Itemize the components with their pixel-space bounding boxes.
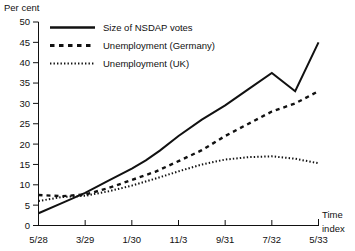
series-line-dashed [39,91,319,196]
x-tick-label: 5/33 [309,234,328,245]
y-tick-label: 5 [25,200,30,211]
x-tick-label: 9/31 [216,234,235,245]
chart-legend: Size of NSDAP votesUnemployment (Germany… [50,22,215,69]
legend-label-2: Unemployment (UK) [103,58,189,69]
y-tick-label: 20 [19,139,30,150]
y-tick-label: 25 [19,118,30,129]
legend-label-0: Size of NSDAP votes [103,22,193,33]
y-tick-label: 45 [19,37,30,48]
x-axis-ticks: 5/283/291/3011/39/317/325/33 [29,220,328,245]
y-tick-label: 35 [19,77,30,88]
y-tick-label: 40 [19,57,30,68]
y-tick-label: 0 [25,220,30,231]
x-axis-title-line2: index [322,223,345,234]
y-tick-label: 10 [19,179,30,190]
y-axis-ticks: 05101520253035404550 [19,16,38,231]
x-tick-label: 1/30 [123,234,142,245]
x-tick-label: 11/3 [170,234,188,245]
y-axis-title: Per cent [4,2,40,13]
x-axis-title-line1: Time [322,209,343,220]
x-tick-label: 3/29 [76,234,95,245]
line-chart: Per cent 05101520253035404550 5/283/291/… [0,0,355,251]
chart-container: Per cent 05101520253035404550 5/283/291/… [0,0,355,251]
y-tick-label: 15 [19,159,30,170]
y-tick-label: 30 [19,98,30,109]
y-tick-label: 50 [19,16,30,27]
legend-label-1: Unemployment (Germany) [103,40,215,51]
x-tick-label: 7/32 [263,234,282,245]
x-tick-label: 5/28 [29,234,48,245]
